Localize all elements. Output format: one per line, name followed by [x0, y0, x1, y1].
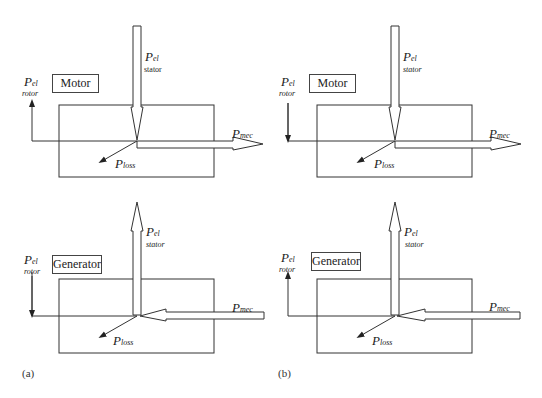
rotor-power-line — [32, 103, 137, 141]
el-subscript: el — [153, 54, 159, 63]
power-flow-diagram — [0, 0, 542, 398]
p-symbol: P — [374, 156, 382, 171]
p-symbol: P — [489, 126, 497, 141]
p-loss-label: Ploss — [115, 154, 135, 172]
loss-subscript: loss — [382, 161, 394, 170]
rotor-power-line — [288, 103, 395, 141]
p-symbol: P — [281, 250, 289, 265]
p-loss-label: Ploss — [374, 154, 394, 172]
el-subscript: el — [32, 79, 38, 88]
p-symbol: P — [232, 300, 240, 315]
p-symbol: P — [232, 126, 240, 141]
rotor-power-line — [288, 275, 395, 316]
stator-subscript: stator — [405, 240, 424, 249]
p-symbol: P — [404, 224, 412, 239]
stator-subscript: stator — [403, 65, 422, 74]
rotor-subscript: rotor — [279, 265, 295, 274]
stator-power-arrow — [389, 202, 401, 315]
p-symbol: P — [281, 74, 289, 89]
panel-tag-a: (a) — [22, 367, 34, 379]
p-el-stator-label: Pel — [146, 222, 160, 240]
p-symbol: P — [372, 333, 380, 348]
stator-power-arrow — [389, 26, 401, 140]
el-subscript: el — [289, 255, 295, 264]
mode-label-motor: Motor — [309, 74, 356, 93]
p-mec-label: Pmec — [232, 124, 253, 142]
loss-subscript: loss — [123, 161, 135, 170]
p-mec-label: Pmec — [489, 297, 510, 315]
p-el-rotor-label: Pel — [281, 72, 295, 90]
el-subscript: el — [32, 257, 38, 266]
p-el-rotor-label: Pel — [24, 250, 38, 268]
mec-subscript: mec — [497, 304, 510, 313]
mode-label-generator: Generator — [52, 255, 102, 274]
p-symbol: P — [115, 156, 123, 171]
p-symbol: P — [146, 224, 154, 239]
rotor-subscript: rotor — [279, 89, 295, 98]
p-symbol: P — [145, 49, 153, 64]
loss-subscript: loss — [121, 338, 133, 347]
p-el-stator-label: Pel — [404, 222, 418, 240]
mec-subscript: mec — [497, 131, 510, 140]
rotor-subscript: rotor — [24, 267, 40, 276]
p-loss-label: Ploss — [372, 331, 392, 349]
mec-subscript: mec — [240, 305, 253, 314]
stator-subscript: stator — [144, 65, 162, 74]
mec-subscript: mec — [240, 131, 253, 140]
p-mec-label: Pmec — [232, 298, 253, 316]
mode-label-generator: Generator — [311, 252, 361, 271]
p-symbol: P — [403, 49, 411, 64]
p-el-rotor-label: Pel — [281, 248, 295, 266]
panel-tag-b: (b) — [278, 367, 291, 379]
p-el-rotor-label: Pel — [24, 72, 38, 90]
p-mec-label: Pmec — [489, 124, 510, 142]
loss-subscript: loss — [380, 338, 392, 347]
p-el-stator-label: Pel — [403, 47, 417, 65]
p-loss-label: Ploss — [113, 331, 133, 349]
el-subscript: el — [412, 229, 418, 238]
stator-power-arrow — [131, 26, 143, 140]
stator-subscript: stator — [146, 240, 165, 249]
el-subscript: el — [411, 54, 417, 63]
stator-power-arrow — [131, 202, 143, 315]
mode-label-motor: Motor — [52, 74, 99, 93]
p-symbol: P — [489, 299, 497, 314]
p-el-stator-label: Pel — [145, 47, 159, 65]
p-symbol: P — [113, 333, 121, 348]
rotor-subscript: rotor — [22, 89, 38, 98]
p-symbol: P — [24, 252, 32, 267]
el-subscript: el — [289, 79, 295, 88]
p-symbol: P — [24, 74, 32, 89]
el-subscript: el — [154, 229, 160, 238]
